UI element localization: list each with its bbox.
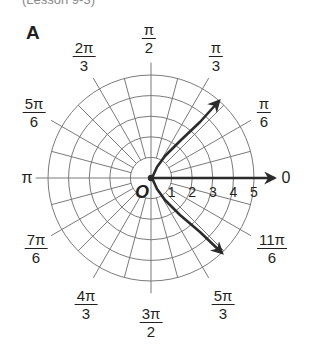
- angle-label-2pi-over-3: 2π3: [73, 40, 96, 73]
- grid-ray-105: [124, 79, 145, 159]
- origin-point: [148, 175, 154, 181]
- grid-ray-45: [166, 105, 224, 163]
- radius-label-5: 5: [250, 184, 258, 200]
- graph-series: [148, 101, 275, 253]
- origin-label: O: [135, 182, 149, 203]
- radius-label-1: 1: [168, 184, 176, 200]
- radius-label-4: 4: [229, 184, 237, 200]
- angle-label-11pi-over-6: 11π6: [257, 232, 287, 265]
- radius-label-2: 2: [188, 184, 196, 200]
- angle-label-pi-over-2: π2: [142, 22, 156, 55]
- grid-ray-15: [171, 151, 251, 172]
- angle-label-pi-over-3: π3: [209, 40, 223, 73]
- grid-ray-165: [52, 151, 132, 172]
- grid-ray-195: [52, 183, 132, 204]
- angle-label-pi-over-6: π6: [257, 96, 271, 129]
- angle-label-5pi-over-3: 5π3: [212, 288, 235, 321]
- grid-ray-225: [78, 193, 136, 251]
- angle-label-7pi-over-6: 7π6: [25, 232, 48, 265]
- angle-label-5pi-over-6: 5π6: [23, 96, 46, 129]
- grid-ray-135: [78, 105, 136, 163]
- grid-ray-315: [166, 193, 224, 251]
- angle-label-pi: π: [21, 169, 32, 187]
- grid-ray-255: [124, 198, 145, 278]
- angle-label-4pi-over-3: 4π3: [75, 288, 98, 321]
- angle-label-3pi-over-2: 3π2: [140, 306, 163, 339]
- angle-label-0: 0: [282, 169, 291, 187]
- radius-label-3: 3: [209, 184, 217, 200]
